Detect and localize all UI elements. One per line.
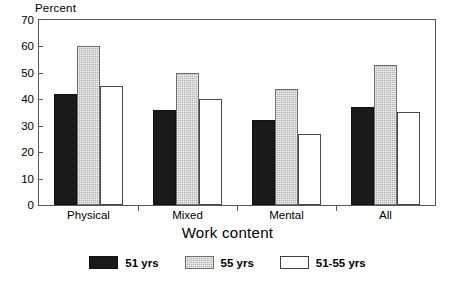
legend-label: 51 yrs: [125, 257, 158, 269]
y-tick-label: 50: [0, 67, 34, 79]
x-tick-label: Mixed: [172, 209, 203, 221]
x-tick-mark: [237, 206, 238, 211]
x-axis-title: Work content: [0, 224, 455, 241]
bars-layer: [39, 20, 435, 205]
x-tick-mark: [138, 206, 139, 211]
bar: [397, 112, 420, 205]
y-tick-label: 40: [0, 93, 34, 105]
legend-item: 51 yrs: [89, 256, 158, 269]
legend-item: 55 yrs: [185, 256, 254, 269]
bar: [100, 86, 123, 205]
legend-label: 55 yrs: [221, 257, 254, 269]
y-tick-label: 20: [0, 146, 34, 158]
bar: [77, 46, 100, 205]
bar-group: [252, 20, 321, 205]
bar: [199, 99, 222, 205]
legend-swatch: [89, 256, 118, 269]
x-tick-label: Mental: [269, 209, 304, 221]
bar-group: [54, 20, 123, 205]
bar-group: [351, 20, 420, 205]
x-tick-mark: [336, 206, 337, 211]
y-tick-label: 70: [0, 14, 34, 26]
bar-chart: Percent 010203040506070 PhysicalMixedMen…: [0, 0, 455, 285]
bar-group: [153, 20, 222, 205]
bar: [54, 94, 77, 205]
legend-swatch: [185, 256, 214, 269]
y-tick-label: 60: [0, 40, 34, 52]
bar: [176, 73, 199, 205]
bar: [374, 65, 397, 205]
bar: [252, 120, 275, 205]
y-tick-label: 10: [0, 173, 34, 185]
x-tick-label: All: [379, 209, 392, 221]
y-axis-title: Percent: [35, 2, 76, 14]
legend-label: 51-55 yrs: [316, 257, 366, 269]
bar: [153, 110, 176, 205]
y-tick-label: 0: [0, 199, 34, 211]
bar: [275, 89, 298, 205]
legend-swatch: [280, 256, 309, 269]
chart-legend: 51 yrs55 yrs51-55 yrs: [0, 256, 455, 269]
bar: [298, 134, 321, 205]
y-tick-label: 30: [0, 120, 34, 132]
y-tick-mark: [38, 205, 43, 206]
bar: [351, 107, 374, 205]
legend-item: 51-55 yrs: [280, 256, 366, 269]
x-tick-label: Physical: [67, 209, 110, 221]
